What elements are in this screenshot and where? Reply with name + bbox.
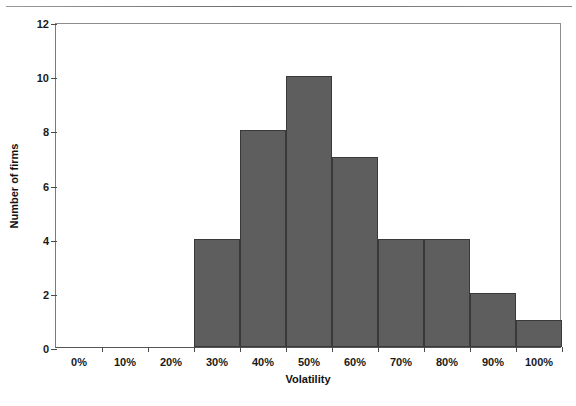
y-tick-mark (51, 78, 57, 79)
bar (332, 157, 378, 347)
y-tick-mark (51, 241, 57, 242)
x-tick-mark (286, 347, 287, 352)
y-tick-label: 2 (43, 289, 49, 301)
bar (240, 130, 286, 347)
x-tick-mark (194, 347, 195, 352)
x-tick-label: 0% (71, 356, 87, 368)
x-tick-mark (102, 347, 103, 352)
x-tick-label: 50% (298, 356, 320, 368)
y-tick-label: 0 (43, 343, 49, 355)
x-tick-mark (240, 347, 241, 352)
bar (516, 320, 562, 347)
x-axis-title: Volatility (55, 373, 561, 385)
y-tick-label: 10 (37, 72, 49, 84)
x-tick-label: 90% (482, 356, 504, 368)
y-tick-mark (51, 349, 57, 350)
x-tick-mark (378, 347, 379, 352)
x-tick-mark (516, 347, 517, 352)
y-tick-mark (51, 24, 57, 25)
x-tick-mark (470, 347, 471, 352)
x-tick-mark (562, 347, 563, 352)
bars-layer (56, 24, 560, 347)
histogram-figure: Number of firms 024681012 0%10%20%30%40%… (0, 0, 576, 406)
x-tick-label: 10% (114, 356, 136, 368)
y-tick-label: 6 (43, 181, 49, 193)
bar (424, 239, 470, 347)
y-axis-title: Number of firms (8, 144, 20, 229)
x-tick-label: 20% (160, 356, 182, 368)
bar (286, 76, 332, 347)
x-tick-label: 100% (525, 356, 553, 368)
x-tick-mark (424, 347, 425, 352)
x-tick-label: 70% (390, 356, 412, 368)
x-tick-label: 80% (436, 356, 458, 368)
y-tick-label: 8 (43, 126, 49, 138)
y-tick-label: 4 (43, 235, 49, 247)
bar (470, 293, 516, 347)
y-tick-mark (51, 132, 57, 133)
plot-area: 024681012 0%10%20%30%40%50%60%70%80%90%1… (55, 23, 561, 348)
y-tick-mark (51, 187, 57, 188)
x-tick-mark (148, 347, 149, 352)
y-tick-label: 12 (37, 18, 49, 30)
x-tick-label: 30% (206, 356, 228, 368)
x-tick-label: 40% (252, 356, 274, 368)
bar (194, 239, 240, 347)
bar (378, 239, 424, 347)
y-tick-mark (51, 295, 57, 296)
x-tick-label: 60% (344, 356, 366, 368)
x-tick-mark (332, 347, 333, 352)
